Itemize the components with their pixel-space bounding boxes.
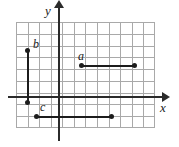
segment-a-endpoint-right (132, 63, 137, 68)
y-axis-label: y (45, 4, 51, 17)
segment-c-endpoint-right (109, 114, 114, 119)
x-axis-line (8, 96, 164, 98)
segment-a (81, 65, 135, 67)
x-axis-label: x (160, 101, 166, 114)
segment-c-endpoint-left (34, 114, 39, 119)
segment-a-label: a (78, 50, 84, 62)
segment-b-label: b (33, 38, 39, 50)
segment-b (27, 50, 29, 103)
segment-c (36, 116, 112, 118)
y-axis-arrow-icon (54, 0, 64, 8)
segment-c-label: c (40, 101, 45, 113)
segment-b-endpoint-bottom (25, 100, 30, 105)
segment-b-endpoint-top (25, 48, 30, 53)
segment-a-endpoint-left (79, 63, 84, 68)
y-axis-line (58, 7, 60, 141)
coordinate-grid-figure: y x a b c (0, 0, 179, 147)
